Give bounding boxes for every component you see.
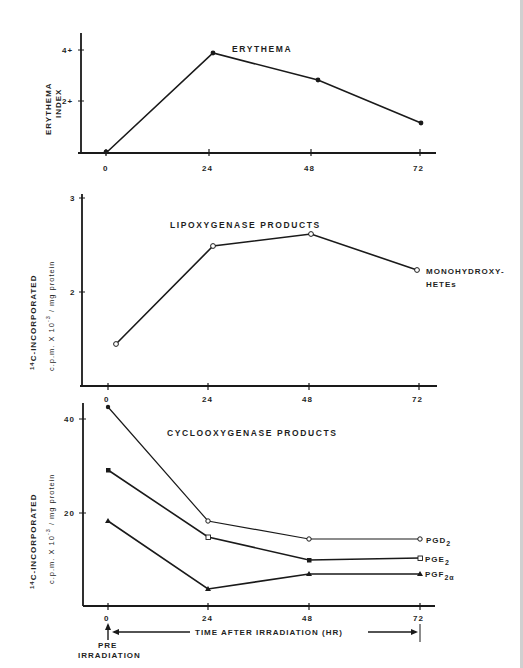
pre-irradiation-label-line2: IRRADIATION	[78, 651, 141, 660]
pgf2a-label: PGF2α	[425, 570, 455, 581]
pgd2-marker	[206, 519, 210, 523]
ytick-4: 4+	[62, 46, 73, 55]
pge2-marker	[106, 468, 111, 473]
pge2-marker	[307, 558, 312, 563]
xtick-0: 0	[103, 164, 108, 173]
xtick-48: 48	[302, 395, 313, 404]
hetes-label-line2: HETEs	[426, 280, 457, 289]
ytick-2: 2	[70, 288, 75, 297]
xtick-72: 72	[413, 164, 424, 173]
pge2-label: PGE2	[425, 555, 450, 566]
hetes-line	[116, 234, 417, 344]
pgd2-marker	[307, 537, 311, 541]
xtick-48: 48	[302, 614, 313, 623]
x-axis-label: TIME AFTER IRRADIATION (HR)	[195, 628, 343, 637]
erythema-ylabel-line2: INDEX	[54, 89, 63, 118]
lipoxygenase-ylabel-line2: c.p.m. X 10-3 / mg protein	[45, 260, 56, 371]
erythema-title: ERYTHEMA	[232, 44, 292, 54]
xtick-24: 24	[202, 614, 213, 623]
cyclooxygenase-ylabel-line1: 14C-INCORPORATED	[29, 494, 38, 589]
ytick-20: 20	[64, 509, 75, 518]
xtick-0: 0	[104, 395, 109, 404]
cyclooxygenase-title: CYCLOOXYGENASE PRODUCTS	[167, 428, 337, 438]
pgd2-marker	[418, 537, 422, 541]
pre-irradiation-label-line1: PRE	[98, 641, 117, 650]
lipoxygenase-title: LIPOXYGENASE PRODUCTS	[170, 220, 321, 230]
ytick-2: 2+	[62, 97, 73, 106]
erythema-line	[106, 53, 421, 153]
xtick-72: 72	[412, 395, 423, 404]
pge2-marker	[206, 535, 211, 540]
ytick-40: 40	[64, 415, 75, 424]
xtick-48: 48	[304, 164, 315, 173]
panel-lipoxygenase: 3 2 0 24 48 72 14C-INCORPORATED c.p.m. X…	[29, 194, 505, 404]
hetes-markers	[114, 232, 420, 347]
xtick-24: 24	[202, 395, 213, 404]
pge2-line	[108, 470, 420, 560]
hetes-label-line1: MONOHYDROXY-	[426, 267, 505, 276]
figure: 4+ 2+ 0 24 48 72 ERYTHEMA INDEX ERYTHEMA…	[0, 0, 523, 668]
pgd2-label: PGD2	[426, 536, 451, 547]
xtick-0: 0	[104, 614, 109, 623]
lipoxygenase-ylabel-line1: 14C-INCORPORATED	[29, 275, 38, 370]
pgd2-line	[108, 407, 420, 539]
xtick-24: 24	[202, 164, 213, 173]
panel-cyclooxygenase: 40 20 0 24 48 72 14C-INCORPORATED c.p.m.…	[29, 403, 455, 660]
ytick-3: 3	[70, 194, 75, 203]
erythema-ylabel-line1: ERYTHEMA	[44, 82, 53, 135]
pge2-marker	[418, 556, 423, 561]
cyclooxygenase-ylabel-line2: c.p.m. X 10-3 / mg protein	[45, 473, 56, 584]
pgd2-marker	[106, 405, 110, 409]
xtick-72: 72	[413, 614, 424, 623]
panel-erythema: 4+ 2+ 0 24 48 72 ERYTHEMA INDEX ERYTHEMA	[44, 33, 436, 173]
